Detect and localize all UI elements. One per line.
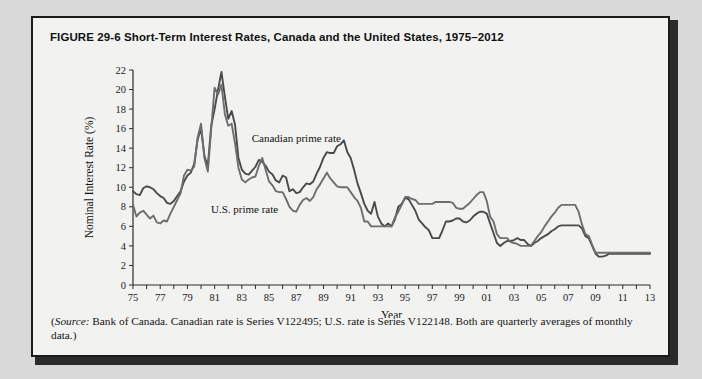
svg-text:09: 09 (590, 292, 601, 303)
svg-text:79: 79 (182, 292, 193, 303)
figure-box: FIGURE 29-6 Short-Term Interest Rates, C… (31, 16, 670, 357)
svg-text:83: 83 (237, 292, 248, 303)
y-axis-title: Nominal Interest Rate (%) (83, 117, 96, 239)
svg-text:97: 97 (427, 292, 438, 303)
y-axis-tick-labels: 0246810121416182022 (116, 65, 127, 291)
interest-rate-line-chart: 0246810121416182022 75777981838587899193… (33, 18, 668, 318)
svg-text:05: 05 (536, 292, 547, 303)
chart-annotations: Canadian prime rateU.S. prime rate (211, 132, 341, 214)
svg-text:18: 18 (116, 104, 127, 115)
svg-text:4: 4 (121, 241, 127, 252)
svg-text:93: 93 (373, 292, 384, 303)
svg-text:01: 01 (481, 292, 492, 303)
svg-text:03: 03 (509, 292, 520, 303)
svg-text:89: 89 (318, 292, 329, 303)
figure-page: FIGURE 29-6 Short-Term Interest Rates, C… (0, 0, 702, 379)
svg-text:75: 75 (128, 292, 139, 303)
series-canada (133, 72, 650, 257)
series-usa (133, 85, 650, 253)
svg-text:07: 07 (563, 292, 574, 303)
svg-text:20: 20 (116, 84, 127, 95)
chart-plot-area: 0246810121416182022 75777981838587899193… (33, 18, 668, 355)
svg-text:95: 95 (400, 292, 411, 303)
svg-text:81: 81 (209, 292, 220, 303)
svg-text:6: 6 (121, 221, 126, 232)
svg-text:2: 2 (121, 260, 126, 271)
chart-axes (129, 70, 650, 289)
source-label: Source: (55, 315, 90, 327)
svg-text:22: 22 (116, 65, 127, 76)
svg-text:8: 8 (121, 201, 126, 212)
series-annotation-usa: U.S. prime rate (211, 203, 278, 215)
svg-text:91: 91 (345, 292, 356, 303)
svg-text:16: 16 (116, 123, 127, 134)
svg-text:0: 0 (121, 280, 126, 291)
svg-text:77: 77 (155, 292, 166, 303)
svg-text:12: 12 (116, 162, 127, 173)
series-annotation-canada: Canadian prime rate (252, 132, 341, 144)
svg-text:10: 10 (116, 182, 127, 193)
svg-text:99: 99 (454, 292, 465, 303)
chart-series-lines (133, 72, 650, 257)
svg-text:87: 87 (291, 292, 302, 303)
svg-text:13: 13 (645, 292, 656, 303)
svg-text:11: 11 (618, 292, 628, 303)
source-body: Bank of Canada. Canadian rate is Series … (51, 315, 633, 341)
x-axis-tick-labels: 7577798183858789919395979901030507091113 (128, 292, 656, 303)
figure-source-note: (Source: Bank of Canada. Canadian rate i… (51, 314, 654, 342)
svg-text:85: 85 (264, 292, 275, 303)
svg-text:14: 14 (116, 143, 127, 154)
